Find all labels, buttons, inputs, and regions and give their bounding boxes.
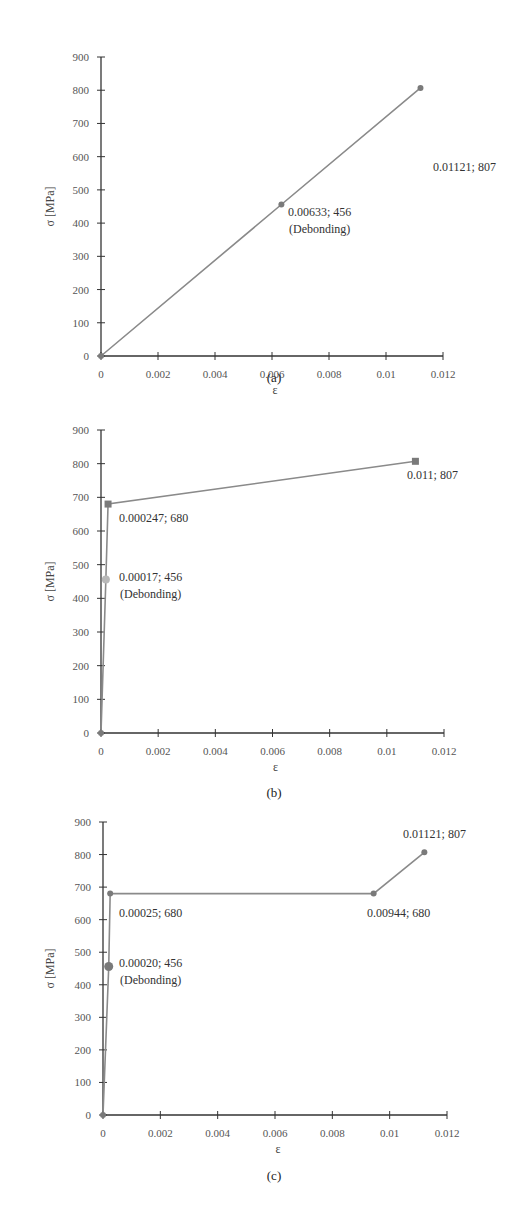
- data-point-marker: [412, 458, 419, 465]
- y-tick-label: 400: [75, 979, 92, 991]
- y-axis-title: σ [MPa]: [43, 186, 57, 226]
- y-tick-label: 0: [86, 1109, 92, 1121]
- x-tick-label: 0.004: [205, 1127, 230, 1139]
- y-tick-label: 400: [73, 592, 90, 604]
- point-annotation: 0.01121; 807: [433, 160, 496, 174]
- x-tick-label: 0.012: [432, 745, 457, 757]
- x-tick-label: 0: [98, 368, 104, 380]
- point-annotation: 0.01121; 807: [403, 827, 466, 841]
- panel-caption: (c): [267, 1168, 281, 1183]
- y-tick-label: 400: [73, 217, 90, 229]
- y-tick-label: 200: [75, 1044, 92, 1056]
- y-tick-label: 100: [73, 317, 90, 329]
- y-tick-label: 800: [75, 849, 92, 861]
- figure: 010020030040050060070080090000.0020.0040…: [0, 0, 510, 1215]
- y-axis-title: σ [MPa]: [43, 948, 57, 988]
- data-point-marker: [421, 849, 427, 855]
- y-tick-label: 700: [73, 117, 90, 129]
- data-point-marker: [100, 1112, 106, 1118]
- point-annotation: 0.00020; 456: [119, 956, 182, 970]
- x-tick-label: 0.01: [377, 745, 396, 757]
- x-tick-label: 0.002: [146, 745, 171, 757]
- x-tick-label: 0.012: [431, 368, 456, 380]
- x-axis-title: ε: [275, 1142, 280, 1156]
- debonding-annotation: (Debonding): [120, 973, 181, 987]
- data-point-marker: [102, 575, 110, 583]
- y-tick-label: 200: [73, 284, 90, 296]
- y-axis-title: σ [MPa]: [43, 561, 57, 601]
- point-annotation: 0.00633; 456: [288, 205, 351, 219]
- x-tick-label: 0.002: [146, 368, 171, 380]
- data-point-marker: [278, 202, 284, 208]
- y-tick-label: 500: [75, 946, 92, 958]
- x-tick-label: 0.002: [148, 1127, 173, 1139]
- x-axis-title: ε: [273, 760, 278, 774]
- chart-panel-b: 010020030040050060070080090000.0020.0040…: [43, 424, 458, 800]
- debonding-annotation: (Debonding): [289, 222, 350, 236]
- data-point-marker: [371, 891, 377, 897]
- y-tick-label: 700: [73, 491, 90, 503]
- point-annotation: 0.011; 807: [407, 468, 458, 482]
- data-point-marker: [107, 891, 113, 897]
- y-tick-label: 100: [73, 693, 90, 705]
- y-tick-label: 900: [75, 816, 92, 828]
- chart-panel-a: 010020030040050060070080090000.0020.0040…: [43, 51, 496, 397]
- y-tick-label: 0: [84, 350, 90, 362]
- x-tick-label: 0.006: [263, 1127, 288, 1139]
- panel-caption: (b): [266, 785, 281, 800]
- y-tick-label: 600: [75, 914, 92, 926]
- y-tick-label: 0: [84, 727, 90, 739]
- x-tick-label: 0.008: [317, 368, 342, 380]
- x-tick-label: 0.006: [260, 745, 285, 757]
- data-point-marker: [417, 85, 423, 91]
- x-tick-label: 0.012: [435, 1127, 460, 1139]
- data-point-marker: [105, 501, 112, 508]
- point-annotation: 0.00017; 456: [119, 570, 182, 584]
- point-annotation: 0.00025; 680: [119, 906, 182, 920]
- y-tick-label: 600: [73, 525, 90, 537]
- y-tick-label: 500: [73, 184, 90, 196]
- data-point-marker: [104, 962, 113, 971]
- y-tick-label: 300: [73, 626, 90, 638]
- x-tick-label: 0: [98, 745, 104, 757]
- x-axis-title: ε: [272, 383, 277, 397]
- x-tick-label: 0.008: [317, 745, 342, 757]
- y-tick-label: 700: [75, 881, 92, 893]
- x-tick-label: 0.004: [203, 745, 228, 757]
- y-tick-label: 800: [73, 458, 90, 470]
- chart-panel-c: 010020030040050060070080090000.0020.0040…: [43, 816, 466, 1183]
- y-tick-label: 900: [73, 51, 90, 63]
- y-tick-label: 300: [73, 250, 90, 262]
- data-point-marker: [98, 353, 104, 359]
- x-tick-label: 0.004: [203, 368, 228, 380]
- point-annotation: 0.000247; 680: [119, 511, 188, 525]
- data-point-marker: [98, 730, 104, 736]
- x-tick-label: 0.01: [376, 368, 395, 380]
- y-tick-label: 100: [75, 1076, 92, 1088]
- x-tick-label: 0: [100, 1127, 106, 1139]
- panel-caption: (a): [267, 370, 281, 385]
- x-tick-label: 0.01: [380, 1127, 399, 1139]
- y-tick-label: 300: [75, 1011, 92, 1023]
- y-tick-label: 500: [73, 559, 90, 571]
- y-tick-label: 800: [73, 84, 90, 96]
- x-tick-label: 0.008: [320, 1127, 345, 1139]
- series-line: [101, 88, 420, 356]
- y-tick-label: 900: [73, 424, 90, 436]
- y-tick-label: 200: [73, 660, 90, 672]
- y-tick-label: 600: [73, 151, 90, 163]
- point-annotation: 0.00944; 680: [367, 906, 430, 920]
- debonding-annotation: (Debonding): [120, 587, 181, 601]
